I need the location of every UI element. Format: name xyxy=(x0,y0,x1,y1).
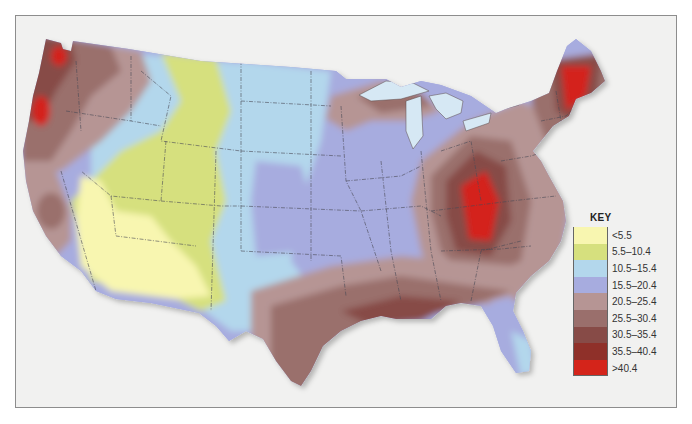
legend-swatch xyxy=(573,260,608,277)
legend-swatch xyxy=(573,277,608,294)
legend-label: <5.5 xyxy=(612,230,632,241)
legend-item: 5.5–10.4 xyxy=(573,244,677,261)
legend-item: <5.5 xyxy=(573,227,677,244)
legend-swatch xyxy=(573,293,608,310)
map-legend: KEY <5.5 5.5–10.4 10.5–15.4 15.5–20.4 20… xyxy=(573,212,677,376)
legend-item: 20.5–25.4 xyxy=(573,293,677,310)
legend-title: KEY xyxy=(590,212,677,223)
legend-item: 30.5–35.4 xyxy=(573,327,677,344)
legend-item: 10.5–15.4 xyxy=(573,260,677,277)
legend-label: 30.5–35.4 xyxy=(612,329,657,340)
legend-item: 35.5–40.4 xyxy=(573,343,677,360)
legend-swatch xyxy=(573,360,608,377)
legend-label: 20.5–25.4 xyxy=(612,296,657,307)
legend-label: 10.5–15.4 xyxy=(612,263,657,274)
legend-item: >40.4 xyxy=(573,360,677,377)
legend-label: >40.4 xyxy=(612,363,637,374)
map-frame: KEY <5.5 5.5–10.4 10.5–15.4 15.5–20.4 20… xyxy=(15,15,677,408)
legend-label: 35.5–40.4 xyxy=(612,346,657,357)
legend-item: 15.5–20.4 xyxy=(573,277,677,294)
legend-swatch xyxy=(573,327,608,344)
legend-label: 25.5–30.4 xyxy=(612,313,657,324)
legend-label: 5.5–10.4 xyxy=(612,246,651,257)
legend-label: 15.5–20.4 xyxy=(612,280,657,291)
legend-swatch xyxy=(573,343,608,360)
legend-swatch xyxy=(573,310,608,327)
legend-swatch xyxy=(573,244,608,261)
legend-item: 25.5–30.4 xyxy=(573,310,677,327)
legend-swatch xyxy=(573,227,608,244)
